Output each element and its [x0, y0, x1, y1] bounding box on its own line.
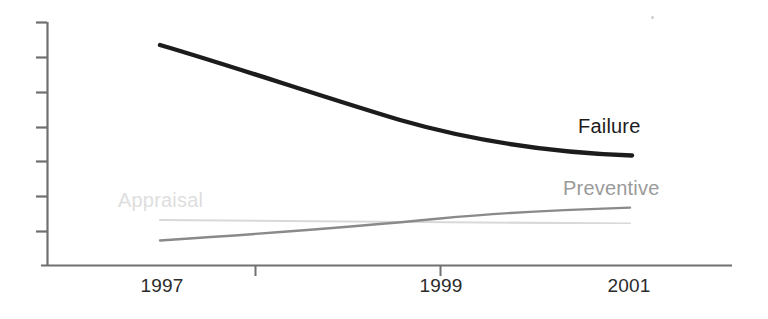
- line-chart: Failure Preventive Appraisal 1997 1999 2…: [0, 0, 768, 319]
- axes-group: [36, 22, 732, 276]
- x-axis-tick-label-1999: 1999: [409, 276, 473, 295]
- x-axis-tick-label-2001: 2001: [597, 276, 661, 295]
- scan-artifact-speck: [651, 16, 654, 19]
- series-label-failure: Failure: [578, 116, 641, 136]
- series-line-failure: [160, 45, 632, 156]
- series-label-appraisal: Appraisal: [118, 190, 203, 210]
- series-label-preventive: Preventive: [563, 178, 660, 198]
- chart-canvas: [0, 0, 768, 319]
- x-axis-tick-label-1997: 1997: [130, 276, 194, 295]
- y-axis-ticks: [36, 23, 47, 232]
- x-axis-ticks: [256, 266, 441, 276]
